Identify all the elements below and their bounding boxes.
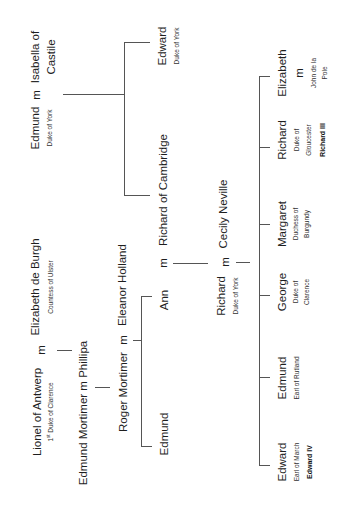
- person-edward-duke-of-york: Edward: [157, 27, 169, 66]
- connector-line: [259, 76, 270, 77]
- child-richard-regnal: Richard III: [319, 123, 326, 157]
- child-elizabeth-name: Elizabeth: [277, 49, 289, 96]
- person-richard-of-cambridge: Richard of Cambridge: [158, 134, 170, 246]
- person-edmund: Edmund: [159, 413, 171, 456]
- child-edward-title: Earl of March: [294, 443, 301, 482]
- connector-line: [63, 94, 124, 95]
- connector-line: [259, 295, 270, 296]
- person-isabella-line1: Isabella of: [30, 31, 42, 83]
- child-edward-name: Edward: [277, 443, 289, 482]
- connector-line: [259, 377, 270, 378]
- person-isabella-line2: Castile: [46, 39, 58, 74]
- person-eleanor-holland: Eleanor Holland: [117, 244, 129, 326]
- person-richard-duke-of-york: Richard: [216, 276, 228, 316]
- child-margaret-title1: Duchess of: [293, 208, 300, 241]
- person-title: Duke of York: [233, 278, 240, 315]
- connector-line: [133, 340, 141, 341]
- connector-line: [95, 387, 110, 388]
- connector-line: [124, 42, 125, 196]
- child-richard-name: Richard: [277, 120, 289, 160]
- connector-line: [124, 42, 150, 43]
- child-george-title1: Duke of: [293, 281, 300, 303]
- marriage-symbol: m: [31, 90, 43, 100]
- connector-line: [259, 465, 270, 466]
- person-roger-mortimer: Roger Mortimer: [118, 352, 130, 432]
- person-ann: Ann: [159, 290, 171, 310]
- connector-line: [236, 262, 250, 263]
- marriage-symbol: m: [118, 335, 130, 345]
- child-richard-title2: Gloucester: [306, 124, 313, 155]
- child-edward-regnal: Edward IV: [306, 445, 313, 479]
- marriage-symbol: m: [158, 258, 170, 268]
- child-elizabeth-spouse2: Pole: [322, 66, 329, 79]
- connector-line: [141, 296, 152, 297]
- child-george-title2: Clarence: [304, 279, 311, 305]
- connector-line: [259, 147, 270, 148]
- person-cecily-neville: Cecily Neville: [218, 179, 230, 248]
- connector-line: [259, 224, 270, 225]
- person-title: Duke of York: [47, 110, 54, 147]
- person-title: Countess of Ulster: [48, 260, 55, 313]
- marriage-symbol: m: [36, 345, 48, 355]
- child-george-name: George: [277, 273, 289, 311]
- child-richard-title1: Duke of: [294, 129, 301, 151]
- child-elizabeth-spouse1: John de la: [311, 58, 318, 88]
- child-margaret-title2: Burgundy: [304, 210, 311, 238]
- connector-line: [141, 446, 152, 447]
- connector-line: [57, 350, 72, 351]
- child-edmund-name: Edmund: [277, 357, 289, 400]
- person-title: 1st Duke of Clarence: [47, 382, 55, 441]
- person-edmund-duke-of-york: Edmund: [30, 107, 42, 150]
- child-edmund-title: Earl of Rutland: [294, 357, 301, 400]
- marriage-symbol: m: [294, 68, 306, 78]
- child-margaret-name: Margaret: [277, 201, 289, 247]
- connector-line: [141, 296, 142, 447]
- family-tree-diagram: Edmund Duke of York m Isabella of Castil…: [0, 0, 344, 512]
- person-title: Duke of York: [174, 28, 181, 65]
- connector-line: [173, 263, 208, 264]
- connector-line: [124, 195, 150, 196]
- person-elizabeth-de-burgh: Elizabeth de Burgh: [30, 238, 42, 335]
- person-edmund-mortimer-m-phillipa: Edmund Mortimer m Phillipa: [78, 341, 90, 485]
- marriage-symbol: m: [220, 257, 232, 267]
- person-lionel-of-antwerp: Lionel of Antwerp: [32, 368, 44, 456]
- connector-line: [259, 76, 260, 466]
